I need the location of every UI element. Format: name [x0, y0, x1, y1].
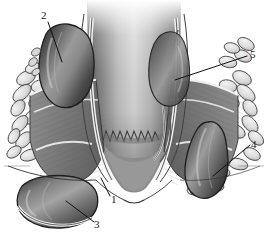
- anatomical-figure: 1 2 3 4 5: [0, 0, 268, 235]
- label-5: 5: [250, 49, 256, 60]
- label-4: 4: [251, 139, 257, 150]
- internal-hemorrhoid-right: [149, 32, 190, 107]
- label-3: 3: [94, 219, 100, 230]
- label-1: 1: [111, 194, 117, 205]
- external-hemorrhoid-left: [17, 176, 98, 229]
- label-2: 2: [41, 10, 47, 21]
- anal-canal-illustration: [0, 0, 268, 235]
